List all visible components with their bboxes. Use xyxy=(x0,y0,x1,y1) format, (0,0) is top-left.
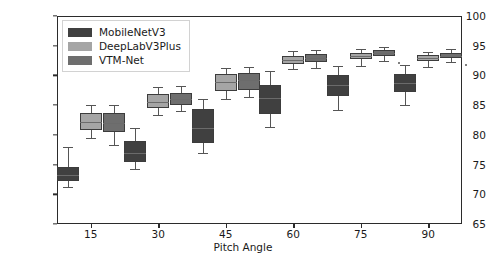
whisker-cap-upper xyxy=(221,68,231,69)
whisker-lower xyxy=(270,114,271,127)
whisker-cap-lower xyxy=(221,99,231,100)
whisker-upper xyxy=(91,105,92,114)
whisker-cap-lower xyxy=(311,68,321,69)
median-line xyxy=(192,128,214,129)
whisker-lower xyxy=(114,132,115,145)
whisker-upper xyxy=(270,71,271,85)
median-line xyxy=(103,123,125,124)
y-axis-tick-mark xyxy=(53,75,57,76)
whisker-cap-lower xyxy=(198,153,208,154)
whisker-upper xyxy=(68,147,69,167)
whisker-cap-upper xyxy=(130,128,140,129)
y-axis-tick-mark xyxy=(53,45,57,46)
y-axis-tick-label: 70 xyxy=(440,188,486,200)
median-line xyxy=(440,56,462,57)
x-axis-tick-mark xyxy=(226,224,227,228)
whisker-cap-upper xyxy=(288,51,298,52)
whisker-cap-lower xyxy=(153,115,163,116)
x-axis-tick-mark xyxy=(158,224,159,228)
median-line xyxy=(57,175,79,176)
whisker-cap-upper xyxy=(400,65,410,66)
whisker-cap-upper xyxy=(423,52,433,53)
whisker-cap-upper xyxy=(86,105,96,106)
whisker-cap-lower xyxy=(244,97,254,98)
median-line xyxy=(80,122,102,123)
x-axis-label: Pitch Angle xyxy=(0,241,486,253)
x-axis-tick-label: 75 xyxy=(336,228,386,240)
y-axis-tick-label: 80 xyxy=(440,129,486,141)
x-axis-tick-mark xyxy=(293,224,294,228)
box-rect xyxy=(238,73,260,90)
whisker-cap-lower xyxy=(130,169,140,170)
median-line xyxy=(215,82,237,83)
whisker-upper xyxy=(181,86,182,93)
whisker-cap-lower xyxy=(176,111,186,112)
y-axis-tick-mark xyxy=(53,15,57,16)
x-axis-tick-mark xyxy=(428,224,429,228)
box-rect xyxy=(57,167,79,181)
whisker-lower xyxy=(91,130,92,138)
whisker-cap-upper xyxy=(198,99,208,100)
outlier-point xyxy=(465,64,467,66)
x-axis-tick-mark xyxy=(361,224,362,228)
y-axis-tick-label: 95 xyxy=(440,40,486,52)
whisker-lower xyxy=(135,162,136,169)
whisker-upper xyxy=(135,128,136,141)
whisker-cap-upper xyxy=(265,71,275,72)
legend-item-label: DeepLabV3Plus xyxy=(99,40,181,52)
median-line xyxy=(327,85,349,86)
legend-item: MobileNetV3 xyxy=(68,25,181,39)
chart-page: 65707580859095100 153045607590 mIoU(%) P… xyxy=(0,0,486,261)
median-line xyxy=(305,58,327,59)
y-axis-tick-mark xyxy=(53,134,57,135)
median-line xyxy=(147,102,169,103)
whisker-cap-upper xyxy=(63,147,73,148)
whisker-cap-upper xyxy=(356,49,366,50)
whisker-cap-lower xyxy=(379,61,389,62)
whisker-upper xyxy=(158,87,159,94)
legend-item: VTM-Net xyxy=(68,53,181,67)
median-line xyxy=(373,53,395,54)
y-axis-tick-mark xyxy=(53,194,57,195)
median-line xyxy=(259,98,281,99)
x-axis-tick-label: 30 xyxy=(133,228,183,240)
whisker-cap-lower xyxy=(86,138,96,139)
whisker-cap-lower xyxy=(400,105,410,106)
whisker-upper xyxy=(405,65,406,73)
whisker-upper xyxy=(203,99,204,109)
legend-item-label: VTM-Net xyxy=(99,54,144,66)
y-axis-tick-label: 90 xyxy=(440,69,486,81)
whisker-cap-upper xyxy=(153,87,163,88)
median-line xyxy=(394,83,416,84)
whisker-cap-upper xyxy=(311,50,321,51)
median-line xyxy=(350,56,372,57)
x-axis-tick-label: 60 xyxy=(268,228,318,240)
legend-swatch-icon xyxy=(68,42,92,51)
median-line xyxy=(170,99,192,100)
x-axis-tick-label: 90 xyxy=(403,228,453,240)
legend-item-label: MobileNetV3 xyxy=(99,26,166,38)
median-line xyxy=(124,153,146,154)
y-axis-tick-mark xyxy=(53,164,57,165)
whisker-cap-lower xyxy=(109,145,119,146)
whisker-lower xyxy=(338,96,339,110)
whisker-cap-upper xyxy=(109,105,119,106)
whisker-cap-upper xyxy=(379,47,389,48)
whisker-upper xyxy=(338,66,339,76)
whisker-upper xyxy=(114,105,115,113)
whisker-lower xyxy=(158,108,159,115)
whisker-cap-lower xyxy=(288,69,298,70)
box-rect xyxy=(124,141,146,162)
outlier-point xyxy=(398,62,400,64)
box-rect xyxy=(192,109,214,143)
y-axis-tick-label: 100 xyxy=(440,10,486,22)
whisker-cap-lower xyxy=(63,187,73,188)
legend-swatch-icon xyxy=(68,28,92,37)
legend: MobileNetV3 DeepLabV3Plus VTM-Net xyxy=(62,20,190,72)
whisker-cap-lower xyxy=(265,127,275,128)
whisker-lower xyxy=(226,91,227,99)
whisker-cap-upper xyxy=(333,66,343,67)
box-rect xyxy=(259,85,281,114)
whisker-cap-lower xyxy=(333,110,343,111)
legend-swatch-icon xyxy=(68,56,92,65)
